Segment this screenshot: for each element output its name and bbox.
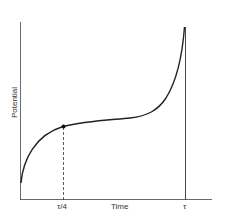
x-axis-label: Time	[111, 202, 128, 211]
quarter-tau-point	[62, 125, 66, 129]
x-tick-tau: τ	[183, 202, 186, 211]
potential-curve	[21, 27, 185, 183]
y-axis-label: Potential	[10, 81, 19, 125]
x-tick-quarter-tau: τ/4	[57, 202, 67, 211]
chart-canvas	[0, 0, 227, 215]
